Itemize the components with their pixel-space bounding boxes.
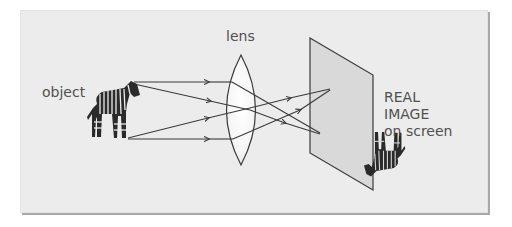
real-image-label-line1: REAL <box>384 89 452 106</box>
real-image-label-line2: IMAGE <box>384 106 452 123</box>
screen <box>310 38 373 190</box>
lens-label: lens <box>226 28 255 45</box>
real-image-label-line3: on screen <box>384 123 452 140</box>
real-image-label: REAL IMAGE on screen <box>384 89 452 140</box>
zebra-object-icon <box>87 81 140 138</box>
object-label: object <box>42 84 85 101</box>
